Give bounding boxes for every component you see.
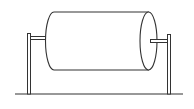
left-post xyxy=(28,34,31,95)
diagram-canvas xyxy=(0,0,194,109)
right-post xyxy=(168,35,171,95)
cylinder-stand-diagram xyxy=(0,0,194,109)
cylinder-body xyxy=(46,12,150,70)
left-axle xyxy=(31,37,47,40)
right-axle xyxy=(151,40,168,43)
